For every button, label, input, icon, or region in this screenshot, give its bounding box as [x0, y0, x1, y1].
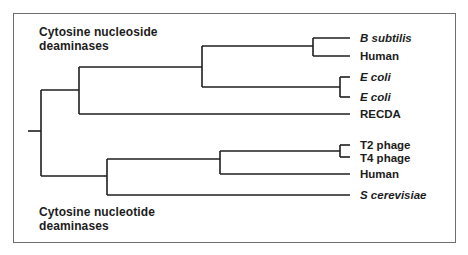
group-label-line: Cytosine nucleoside — [39, 25, 158, 39]
leaf-label-t4-phage: T4 phage — [360, 151, 410, 165]
leaf-label-b-subtilis: B subtilis — [360, 31, 412, 45]
group-label-line: deaminases — [39, 39, 158, 53]
group-label-line: Cytosine nucleotide — [39, 205, 155, 219]
nucleoside-group-label: Cytosine nucleoside deaminases — [39, 25, 158, 53]
leaf-label-human: Human — [360, 49, 399, 63]
leaf-label-s-cerevisiae: S cerevisiae — [360, 188, 427, 202]
leaf-label-human: Human — [360, 167, 399, 181]
group-label-line: deaminases — [39, 219, 155, 233]
leaf-label-e-coli: E coli — [360, 70, 391, 84]
leaf-label-t2-phage: T2 phage — [360, 138, 410, 152]
leaf-label-e-coli: E coli — [360, 90, 391, 104]
nucleotide-group-label: Cytosine nucleotide deaminases — [39, 205, 155, 233]
leaf-label-recda: RECDA — [360, 107, 401, 121]
